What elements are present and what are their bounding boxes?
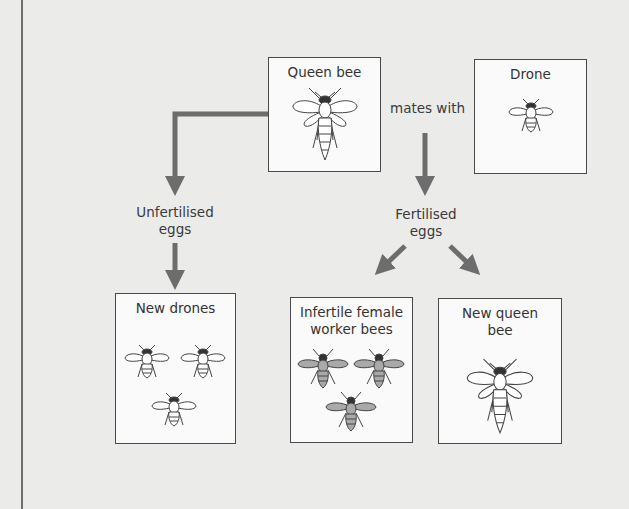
worker-bee-icon: [353, 348, 405, 390]
worker-bee-icon: [297, 348, 349, 390]
queen-bee-box: Queen bee: [268, 57, 381, 172]
fertilised-eggs-label: Fertilised eggs: [388, 206, 464, 240]
drone-bee-icon: [508, 98, 554, 134]
new-drones-box: New drones: [115, 293, 236, 444]
drone-bee-icon: [149, 392, 199, 428]
queen-bee-icon: [457, 355, 543, 437]
queen-bee-label: Queen bee: [269, 64, 380, 81]
worker-bees-box: Infertile female worker bees: [290, 297, 413, 443]
worker-bee-icon: [325, 391, 377, 433]
new-queen-label: New queen bee: [439, 305, 561, 339]
arrow-fertilised-to-new-queen: [450, 246, 473, 268]
new-drones-label: New drones: [116, 300, 235, 317]
drone-box: Drone: [474, 59, 587, 174]
mates-with-label: mates with: [385, 100, 470, 117]
drone-bee-icon: [122, 344, 172, 380]
arrow-fertilised-to-workers: [382, 246, 405, 268]
worker-bees-label: Infertile female worker bees: [291, 304, 412, 338]
new-queen-box: New queen bee: [438, 298, 562, 444]
drone-label: Drone: [475, 66, 586, 83]
arrow-queen-to-unfertilised: [175, 114, 268, 186]
drone-bee-icon: [178, 344, 228, 380]
queen-bee-icon: [291, 84, 359, 164]
unfertilised-eggs-label: Unfertilised eggs: [122, 204, 228, 238]
